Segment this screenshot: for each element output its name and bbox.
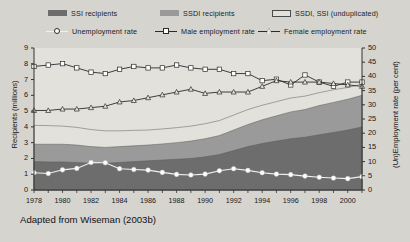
- data-point-marker: [60, 61, 64, 65]
- data-point-marker: [117, 67, 121, 71]
- x-axis-tick-label: 1996: [277, 196, 305, 205]
- data-point-marker: [89, 70, 93, 74]
- figure-caption: Adapted from Wiseman (2003b): [20, 214, 156, 225]
- x-axis-tick-label: 1986: [134, 196, 162, 205]
- data-point-marker: [274, 172, 279, 177]
- y-axis-right-tick-label: 45: [368, 57, 390, 66]
- legend-label-unduplicated: SSDI, SSI (unduplicated): [295, 9, 378, 18]
- y-axis-right-tick-label: 15: [368, 142, 390, 151]
- data-point-marker: [260, 78, 264, 82]
- x-axis-tick-label: 1982: [77, 196, 105, 205]
- data-point-marker: [217, 67, 221, 71]
- y-axis-left-tick-label: 2: [4, 153, 28, 162]
- x-axis-tick-label: 1990: [191, 196, 219, 205]
- data-point-marker: [174, 172, 179, 177]
- data-point-marker: [103, 71, 107, 75]
- chart-canvas: [0, 42, 410, 202]
- y-axis-left-tick-label: 4: [4, 122, 28, 131]
- circle-marker-icon: [46, 26, 68, 36]
- data-point-marker: [303, 73, 307, 77]
- data-point-marker: [246, 168, 251, 173]
- data-point-marker: [288, 172, 293, 177]
- x-axis-tick-label: 1988: [163, 196, 191, 205]
- x-axis-tick-label: 1984: [106, 196, 134, 205]
- y-axis-right-tick-label: 40: [368, 71, 390, 80]
- x-axis-tick-label: 1998: [305, 196, 333, 205]
- data-point-marker: [146, 66, 150, 70]
- data-point-marker: [203, 172, 208, 177]
- data-point-marker: [46, 171, 51, 176]
- data-point-marker: [217, 168, 222, 173]
- data-point-marker: [146, 168, 151, 173]
- y-axis-right-tick-label: 0: [368, 185, 390, 194]
- legend-item-female-employment-rate: Female employment rate: [258, 24, 367, 38]
- data-point-marker: [303, 174, 308, 179]
- data-point-marker: [246, 71, 250, 75]
- y-axis-right-tick-label: 5: [368, 171, 390, 180]
- data-point-marker: [132, 167, 137, 172]
- data-point-marker: [103, 160, 108, 165]
- y-axis-left-tick-label: 1: [4, 169, 28, 178]
- data-point-marker: [160, 66, 164, 70]
- data-point-marker: [74, 166, 79, 171]
- data-point-marker: [60, 168, 65, 173]
- x-axis-tick-label: 1994: [248, 196, 276, 205]
- y-axis-right-tick-label: 30: [368, 100, 390, 109]
- chart-figure: SSI recipients SSDI recipients SSDI, SSI…: [0, 0, 410, 242]
- data-point-marker: [132, 64, 136, 68]
- data-point-marker: [75, 66, 79, 70]
- triangle-marker-icon: [258, 26, 280, 36]
- x-axis-tick-label: 1992: [220, 196, 248, 205]
- y-axis-right-title: (Un)Employment rate (per cent): [391, 40, 400, 190]
- data-point-marker: [174, 63, 178, 67]
- data-point-marker: [117, 166, 122, 171]
- legend-label-unemployment: Unemployment rate: [72, 27, 137, 36]
- plot-area: Recipients (millions) (Un)Employment rat…: [0, 42, 410, 202]
- legend-label-male: Male employment rate: [181, 27, 255, 36]
- legend-item-male-employment-rate: Male employment rate: [155, 24, 255, 38]
- y-axis-left-tick-label: 5: [4, 106, 28, 115]
- x-axis-tick-label: 2000: [334, 196, 362, 205]
- legend-item-ssi-recipients: SSI recipients: [48, 6, 117, 20]
- legend-label-female: Female employment rate: [284, 27, 367, 36]
- data-point-marker: [160, 170, 165, 175]
- y-axis-right-tick-label: 35: [368, 86, 390, 95]
- legend-row-lines: Unemployment rate Male employment rate F…: [0, 24, 410, 38]
- legend-row-areas: SSI recipients SSDI recipients SSDI, SSI…: [0, 6, 410, 20]
- legend-label-ssdi: SSDI recipients: [183, 9, 235, 18]
- square-marker-icon: [155, 26, 177, 36]
- data-point-marker: [203, 67, 207, 71]
- y-axis-right-tick-label: 20: [368, 128, 390, 137]
- unduplicated-color-swatch: [272, 10, 291, 17]
- data-point-marker: [331, 176, 336, 181]
- y-axis-left-tick-label: 8: [4, 59, 28, 68]
- y-axis-right-tick-label: 10: [368, 157, 390, 166]
- y-axis-left-tick-label: 9: [4, 43, 28, 52]
- ssdi-color-swatch: [160, 10, 179, 16]
- y-axis-left-tick-label: 3: [4, 138, 28, 147]
- data-point-marker: [260, 170, 265, 175]
- y-axis-right-tick-label: 50: [368, 43, 390, 52]
- legend-item-ssdi-recipients: SSDI recipients: [160, 6, 235, 20]
- x-axis-tick-label: 1980: [49, 196, 77, 205]
- ssi-color-swatch: [48, 10, 67, 16]
- data-point-marker: [317, 175, 322, 180]
- legend-label-ssi: SSI recipients: [71, 9, 117, 18]
- y-axis-left-tick-label: 0: [4, 185, 28, 194]
- y-axis-left-tick-label: 6: [4, 90, 28, 99]
- data-point-marker: [231, 71, 235, 75]
- chart-legend: SSI recipients SSDI recipients SSDI, SSI…: [0, 6, 410, 42]
- data-point-marker: [345, 176, 350, 181]
- x-axis-tick-label: 1978: [20, 196, 48, 205]
- data-point-marker: [231, 166, 236, 171]
- y-axis-right-tick-label: 25: [368, 114, 390, 123]
- legend-item-unduplicated: SSDI, SSI (unduplicated): [272, 6, 378, 20]
- legend-item-unemployment-rate: Unemployment rate: [46, 24, 137, 38]
- data-point-marker: [89, 160, 94, 165]
- data-point-marker: [189, 173, 194, 178]
- data-point-marker: [46, 63, 50, 67]
- data-point-marker: [189, 66, 193, 70]
- y-axis-left-tick-label: 7: [4, 75, 28, 84]
